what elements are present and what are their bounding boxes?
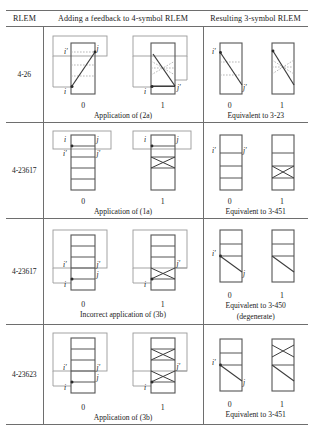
table-header-row: RLEM Adding a feedback to 4-symbol RLEM … [6,11,308,27]
panel-group-middle: i′ j′ i j 0 [44,225,203,309]
rlem-svg: i j [129,126,197,198]
port-label-i: i [64,280,66,289]
state-label: 0 [208,400,252,409]
panel-group-middle: i j i′ j′ 0 [44,126,203,206]
port-label-i-prime: i′ [212,146,216,155]
state-label: 0 [49,300,117,309]
row-label-rlem: 4-23617 [6,123,43,219]
rlem-result-state-1: 1 [260,126,304,206]
port-label-i-prime: i′ [64,47,68,56]
port-label-i-prime: i′ [212,47,216,56]
rlem-result-state-0: i′ j 0 [208,222,252,300]
state-label: 0 [49,101,117,110]
rlem-svg [260,30,304,102]
rlem-diagram-state-0: i′ j′ i j 0 [49,225,117,309]
header-resulting: Resulting 3-symbol RLEM [203,11,308,27]
table-row: 4-23617 i j [6,123,308,219]
rlem-result-state-0: i′ j′ 0 [208,126,252,206]
right-caption: Equivalent to 3-451 [204,409,309,421]
state-label: 1 [260,291,304,300]
state-label: 1 [260,197,304,206]
state-label: 0 [49,403,117,412]
panel-group-middle: i′ j′ i j 0 [44,328,203,412]
panel-group-right: i′ j 0 1 [204,222,309,300]
port-label-j-prime: j′ [96,260,101,269]
rlem-diagram-state-0: i′ j′ i j 0 [49,328,117,412]
rlem-result-state-0: i′ j 0 [208,331,252,409]
rlem-svg [260,331,304,401]
port-label-j-prime: j′ [242,146,247,155]
panel-group-right: i′ j′ 0 1 [204,30,309,110]
right-caption: Equivalent to 3-23 [204,110,309,122]
middle-caption: Incorrect application of (3b) [44,309,203,321]
state-label: 1 [129,403,197,412]
port-label-j: j [242,378,245,387]
port-label-j: j [175,135,178,144]
rlem-svg: i′ j′ i j [49,225,117,301]
row-right-cell: i′ j′ 0 1 [203,123,308,219]
rlem-svg: i j′ [129,328,197,404]
port-label-j: j [96,44,99,53]
port-label-j-prime: j′ [96,149,101,158]
rlem-result-state-1: 1 [260,30,304,110]
state-label: 0 [49,197,117,206]
port-label-j-prime: j′ [176,83,181,92]
rlem-diagram-state-1: i j′ 1 [129,328,197,412]
row-label-rlem: 4-26 [6,27,43,123]
panel-group-right: i′ j′ 0 1 [204,126,309,206]
rlem-diagram-state-1: i j′ 1 [129,30,197,110]
port-label-i-prime: i′ [63,363,67,372]
middle-caption: Application of (2a) [44,110,203,122]
state-label: 0 [208,197,252,206]
table-row: 4-23623 [6,324,308,424]
header-feedback: Adding a feedback to 4-symbol RLEM [43,11,203,27]
port-label-j: j [242,269,245,278]
figure-page: RLEM Adding a feedback to 4-symbol RLEM … [0,10,314,427]
rlem-result-state-1: 1 [260,222,304,300]
rlem-svg [260,126,304,198]
state-label: 1 [129,197,197,206]
rlem-svg: i′ j [208,222,252,292]
port-label-i: i [144,87,146,96]
port-label-j-prime: j′ [175,259,180,268]
rlem-diagram-state-1: i j 1 [129,126,197,206]
row-right-cell: i′ j 0 1 Eq [203,219,308,325]
state-label: 1 [260,101,304,110]
state-label: 1 [129,101,197,110]
row-middle-cell: i j i′ j′ 0 [43,123,203,219]
port-label-j-prime: j′ [242,83,247,92]
port-label-j: j [96,135,99,144]
rlem-svg: i′ j i [49,30,117,102]
port-label-j-prime: j′ [175,362,180,371]
row-label-rlem: 4-23623 [6,324,43,424]
port-label-i-prime: i′ [63,260,67,269]
rlem-svg: i′ j [208,331,252,401]
row-label-rlem: 4-23617 [6,219,43,325]
rlem-result-state-0: i′ j′ 0 [208,30,252,110]
row-right-cell: i′ j 0 1 [203,324,308,424]
rlem-diagram-state-1: i j′ 1 [129,225,197,309]
table-row: 4-26 [6,27,308,123]
rlem-svg: i j′ [129,225,197,301]
row-middle-cell: i′ j′ i j 0 [43,324,203,424]
rlem-diagram-state-0: i j i′ j′ 0 [49,126,117,206]
rlem-svg: i′ j′ [208,126,252,198]
port-label-i-prime: i′ [212,249,216,258]
port-label-i: i [144,383,146,392]
rlem-result-state-1: 1 [260,331,304,409]
header-rlem: RLEM [6,11,43,27]
rlem-diagram-state-0: i′ j i 0 [49,30,117,110]
state-label: 1 [129,300,197,309]
port-label-i: i [64,383,66,392]
port-label-i: i [144,280,146,289]
rlem-table: RLEM Adding a feedback to 4-symbol RLEM … [6,10,308,425]
rlem-svg: i′ j′ i j [49,328,117,404]
right-subcaption: (degenerate) [204,312,309,324]
port-label-j-prime: j′ [96,363,101,372]
port-label-i: i [144,135,146,144]
right-caption: Equivalent to 3-451 [204,206,309,218]
panel-group-middle: i′ j i 0 [44,30,203,110]
middle-caption: Application of (3b) [44,412,203,424]
panel-group-right: i′ j 0 1 [204,331,309,409]
row-middle-cell: i′ j i 0 [43,27,203,123]
